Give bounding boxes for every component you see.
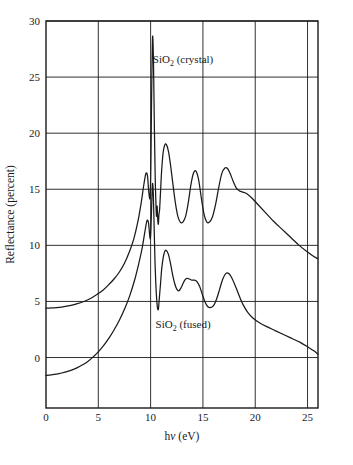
x-tick-label: 10 [145,411,157,423]
annotation-fused-prefix: SiO [156,318,173,330]
annotation-sio2-crystal: SiO2 (crystal) [153,53,214,68]
y-axis-tick-labels: 051015202530 [29,15,41,364]
x-axis-tick-labels: 0510152025 [43,411,313,423]
y-tick-label: 20 [29,127,41,139]
y-tick-label: 0 [35,352,41,364]
x-tick-label: 5 [96,411,102,423]
curve-sio2-fused [46,183,318,375]
y-tick-label: 15 [29,183,41,195]
x-tick-label: 0 [43,411,49,423]
figure-container: 0510152025 051015202530 hν (eV) Reflecta… [0,0,353,465]
annotation-crystal-suffix: (crystal) [174,53,214,66]
annotation-crystal-prefix: SiO [153,53,170,65]
y-tick-label: 5 [35,295,41,307]
y-axis-title: Reflectance (percent) [4,165,17,264]
annotation-fused-suffix: (fused) [177,318,211,331]
x-tick-label: 20 [250,411,262,423]
x-axis-title: hν (eV) [165,430,200,443]
grid-lines-group [46,21,318,408]
plot-frame [46,21,318,408]
reflectance-chart: 0510152025 051015202530 hν (eV) Reflecta… [0,0,353,465]
y-tick-label: 25 [29,71,41,83]
x-tick-label: 15 [197,411,209,423]
x-tick-label: 25 [302,411,314,423]
x-axis-title-unit: (eV) [175,430,199,443]
y-tick-label: 10 [29,239,41,251]
y-tick-label: 30 [29,15,41,27]
